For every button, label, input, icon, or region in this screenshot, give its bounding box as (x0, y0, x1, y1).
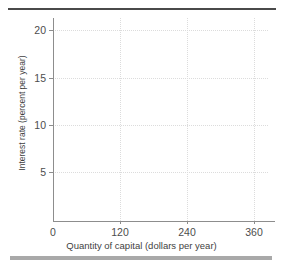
y-axis-title: Interest rate (percent per year) (17, 23, 27, 203)
x-tick-label-360: 360 (234, 226, 274, 238)
top-caption (0, 0, 283, 3)
x-tick-label-240: 240 (167, 226, 207, 238)
x-tick-label-0: 0 (33, 226, 73, 238)
gridline-vertical-120 (120, 18, 122, 221)
y-tick-label-10: 10 (10, 120, 46, 130)
y-tick-label-15: 15 (10, 73, 46, 83)
y-tick-mark-10 (49, 125, 54, 126)
y-tick-label-wrap-10: 10 (8, 120, 46, 121)
x-tick-mark-240 (187, 221, 188, 224)
x-tick-mark-120 (120, 221, 121, 224)
gridline-horizontal-5 (53, 172, 268, 174)
x-axis-line (53, 221, 275, 222)
gridline-horizontal-15 (53, 78, 268, 80)
y-tick-mark-15 (49, 78, 54, 79)
y-tick-label-20: 20 (10, 25, 46, 35)
y-tick-mark-5 (49, 172, 54, 173)
y-tick-label-5: 5 (10, 167, 46, 177)
plot-area (53, 18, 265, 221)
x-axis-title: Quantity of capital (dollars per year) (0, 240, 283, 251)
figure-container: 20 15 10 5 0 120 240 360 Interest rate (… (0, 0, 283, 266)
x-tick-label-120: 120 (100, 226, 140, 238)
gridline-vertical-360 (254, 18, 256, 221)
gridline-horizontal-20 (53, 30, 268, 32)
gridline-horizontal-10 (53, 125, 268, 127)
gridline-vertical-240 (187, 18, 189, 221)
bottom-divider-bar (10, 256, 272, 260)
y-axis-line (53, 18, 54, 222)
x-tick-mark-360 (254, 221, 255, 224)
y-tick-label-wrap-20: 20 (8, 25, 46, 26)
y-tick-label-wrap-5: 5 (8, 167, 46, 168)
y-tick-mark-20 (49, 30, 54, 31)
y-tick-label-wrap-15: 15 (8, 73, 46, 74)
top-divider-rule (8, 8, 276, 10)
